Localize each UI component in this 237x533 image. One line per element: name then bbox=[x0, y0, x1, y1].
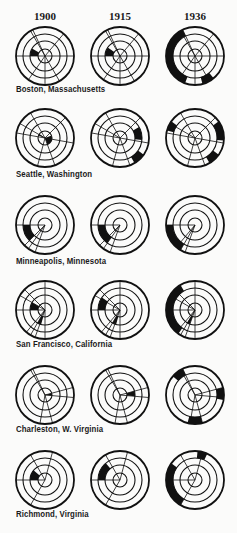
spoke bbox=[195, 138, 205, 165]
spoke bbox=[176, 310, 195, 332]
radial-chart-1936 bbox=[166, 27, 224, 85]
radial-diagram-grid bbox=[0, 0, 237, 533]
spoke bbox=[26, 310, 45, 332]
spoke bbox=[195, 34, 214, 56]
radial-chart-1915 bbox=[91, 281, 149, 339]
radial-chart-1900 bbox=[16, 281, 74, 339]
radial-chart-1936 bbox=[166, 451, 224, 509]
radial-chart-1915 bbox=[91, 366, 149, 424]
radial-chart-1900 bbox=[16, 366, 74, 424]
radial-chart-1915 bbox=[91, 27, 149, 85]
spoke bbox=[35, 310, 45, 337]
spoke bbox=[45, 34, 64, 56]
spoke bbox=[120, 138, 130, 165]
spoke bbox=[110, 225, 120, 252]
spoke bbox=[101, 310, 120, 332]
spoke bbox=[185, 225, 195, 252]
radial-chart-1915 bbox=[91, 196, 149, 254]
radial-chart-1936 bbox=[166, 109, 224, 167]
radial-chart-1936 bbox=[166, 281, 224, 339]
spoke bbox=[195, 117, 216, 138]
spoke bbox=[35, 225, 45, 252]
spoke bbox=[185, 310, 195, 337]
radial-chart-1915 bbox=[91, 109, 149, 167]
radial-chart-1900 bbox=[16, 196, 74, 254]
radial-chart-1915 bbox=[91, 451, 149, 509]
radial-chart-1900 bbox=[16, 109, 74, 167]
radial-chart-1936 bbox=[166, 196, 224, 254]
spoke bbox=[120, 34, 139, 56]
radial-chart-1900 bbox=[16, 27, 74, 85]
spoke bbox=[176, 225, 195, 247]
radial-chart-1900 bbox=[16, 451, 74, 509]
radial-chart-1936 bbox=[166, 366, 224, 424]
spoke bbox=[110, 310, 120, 337]
spoke bbox=[45, 117, 66, 138]
